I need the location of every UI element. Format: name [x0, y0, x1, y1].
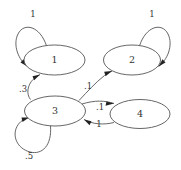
- node-3-label: 3: [52, 105, 58, 116]
- edge-label-3-to-4: .1: [96, 102, 104, 112]
- edge-label-3-to-1: .3: [19, 84, 27, 94]
- edge-label-self-loop-node-2: 1: [149, 9, 154, 19]
- node-4[interactable]: 4: [110, 100, 170, 129]
- node-2-label: 2: [129, 54, 135, 65]
- edge-label-4-to-3: 1: [96, 119, 101, 129]
- state-diagram: 1 2 3 4 1 1 .5 .3 .1 .1 1: [0, 0, 181, 170]
- edge-3-to-2-arrowhead: [104, 71, 112, 76]
- edge-label-3-to-2: .1: [84, 81, 92, 91]
- node-2[interactable]: 2: [104, 45, 161, 75]
- graph-canvas: 1 2 3 4 1 1 .5 .3 .1 .1 1: [0, 0, 181, 170]
- edge-3-to-1: [28, 75, 40, 100]
- node-4-label: 4: [137, 108, 143, 119]
- node-3[interactable]: 3: [25, 96, 86, 126]
- edge-label-self-loop-node-1: 1: [30, 9, 35, 19]
- edge-4-to-3-arrowhead: [84, 120, 92, 126]
- edge-label-self-loop-node-3: .5: [25, 151, 33, 161]
- node-1[interactable]: 1: [24, 45, 85, 75]
- node-1-label: 1: [51, 54, 57, 65]
